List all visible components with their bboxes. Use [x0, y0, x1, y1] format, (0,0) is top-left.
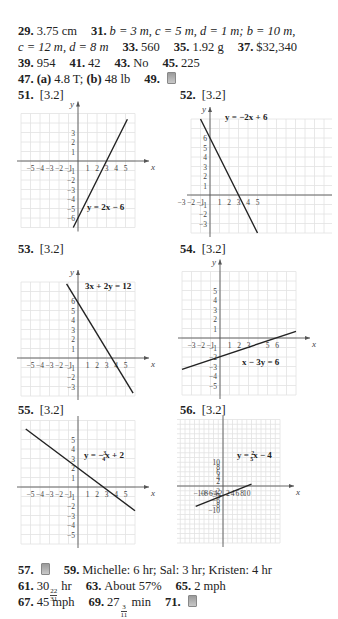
svg-text:−2: −2 — [67, 502, 75, 511]
graph-54: xy−3−2−11235654321−1−2−3−4−5x − 3y = 6 — [177, 255, 332, 403]
answer-line-1: 29.3.75 cm31.b = 3 m, c = 5 m, d = 1 m; … — [18, 24, 295, 39]
answer-number: 33. — [122, 40, 138, 54]
answer-text: 560 — [141, 40, 160, 54]
svg-text:−4: −4 — [209, 372, 217, 381]
svg-text:x: x — [311, 339, 316, 349]
svg-text:−4: −4 — [36, 361, 44, 370]
answer-text: c = 12 m, d = 8 m — [18, 40, 108, 54]
svg-text:4: 4 — [114, 164, 118, 173]
answer-text: 2 mph — [194, 579, 226, 593]
answer-text: 954 — [37, 56, 56, 70]
svg-text:−3: −3 — [67, 512, 75, 521]
svg-text:y = −34x + 2: y = −34x + 2 — [84, 450, 124, 462]
mixed-whole: 30 — [37, 579, 50, 593]
svg-text:3: 3 — [247, 341, 251, 350]
svg-text:2: 2 — [237, 341, 241, 350]
answer-number: 45. — [162, 56, 178, 70]
svg-text:x − 3y = 6: x − 3y = 6 — [242, 357, 280, 367]
graph-55: xy−5−4−3−2−11234554321−1−2−3−4−5y = −34x… — [15, 416, 170, 556]
answer-text: 3.75 cm — [37, 24, 77, 38]
svg-text:3x + 2y = 12: 3x + 2y = 12 — [85, 281, 132, 291]
answer-text: 4.8 T; — [54, 72, 83, 86]
answer-number: 41. — [69, 56, 85, 70]
svg-text:3: 3 — [71, 326, 75, 335]
svg-text:−3: −3 — [199, 220, 207, 229]
frac-den: 11 — [121, 612, 128, 619]
svg-text:−2: −2 — [55, 361, 63, 370]
svg-text:−10: −10 — [208, 506, 220, 515]
svg-text:−2: −2 — [55, 490, 63, 499]
svg-text:5: 5 — [213, 287, 217, 296]
svg-text:5: 5 — [266, 341, 270, 350]
calculator-icon — [41, 563, 50, 575]
svg-text:1: 1 — [218, 198, 222, 207]
svg-text:−1: −1 — [199, 201, 207, 210]
graph-number: 53. — [18, 242, 34, 256]
svg-text:2: 2 — [71, 138, 75, 147]
answer-text: 1.92 g — [192, 40, 223, 54]
answer-number: 57. — [18, 563, 34, 577]
svg-text:−2: −2 — [187, 198, 195, 207]
svg-text:−1: −1 — [67, 364, 75, 373]
answer-number: 37. — [238, 40, 254, 54]
answer-number: 35. — [174, 40, 190, 54]
answer-text: Michelle: 6 hr; Sal: 3 hr; Kristen: 4 hr — [82, 563, 272, 577]
svg-text:−3: −3 — [188, 341, 196, 350]
svg-text:x: x — [150, 162, 155, 172]
svg-text:5: 5 — [71, 307, 75, 316]
answer-text: b = 3 m, c = 5 m, d = 1 m; b = 10 m, — [110, 24, 296, 38]
svg-text:3: 3 — [105, 164, 109, 173]
unit: min — [131, 595, 150, 609]
graph-53: xy−5−4−3−2−112345654321−1−2−33x + 2y = 1… — [15, 255, 170, 403]
svg-text:−6: −6 — [67, 214, 75, 223]
svg-text:−3: −3 — [46, 164, 54, 173]
svg-text:1: 1 — [203, 182, 207, 191]
svg-text:10: 10 — [243, 489, 251, 498]
svg-text:−3: −3 — [46, 361, 54, 370]
svg-text:4: 4 — [213, 296, 217, 305]
answer-number: 65. — [176, 579, 192, 593]
svg-text:y: y — [69, 100, 74, 109]
unit: hr — [61, 579, 71, 593]
svg-text:1: 1 — [228, 341, 232, 350]
calculator-icon — [188, 595, 197, 607]
svg-text:y = 2x − 6: y = 2x − 6 — [87, 202, 125, 212]
svg-text:−4: −4 — [36, 164, 44, 173]
graph-number: 55. — [18, 403, 34, 417]
svg-text:2: 2 — [213, 315, 217, 324]
svg-text:3: 3 — [71, 129, 75, 138]
answer-text: 48 lb — [105, 72, 130, 86]
svg-text:−5: −5 — [209, 382, 217, 391]
svg-text:−2: −2 — [197, 341, 205, 350]
fraction: 311 — [121, 604, 128, 619]
answer-line-2: c = 12 m, d = 8 m33.56035.1.92 g37.$32,3… — [18, 40, 297, 55]
mixed-whole: 27 — [107, 595, 120, 609]
answer-number: 31. — [91, 24, 107, 38]
graph-52: xy−5−4−3−2−112345654321−1−2−3y = −2x + 6 — [177, 100, 332, 242]
svg-text:y: y — [211, 257, 216, 267]
section-ref: [3.2] — [40, 242, 64, 256]
answer-text: $32,340 — [256, 40, 297, 54]
part-label: (b) — [86, 72, 101, 86]
svg-text:−2: −2 — [55, 164, 63, 173]
svg-text:2: 2 — [227, 198, 231, 207]
svg-text:5: 5 — [203, 144, 207, 153]
svg-text:5: 5 — [124, 490, 128, 499]
svg-text:4: 4 — [71, 316, 75, 325]
svg-text:3: 3 — [203, 163, 207, 172]
svg-text:4: 4 — [71, 445, 75, 454]
answer-text: 42 — [88, 56, 101, 70]
svg-text:1: 1 — [71, 345, 75, 354]
svg-text:3: 3 — [105, 361, 109, 370]
svg-text:x: x — [295, 487, 300, 497]
answer-number: 61. — [18, 579, 34, 593]
svg-text:−5: −5 — [67, 531, 75, 540]
svg-text:2: 2 — [95, 164, 99, 173]
answer-line-bottom-1: 57.59.Michelle: 6 hr; Sal: 3 hr; Kristen… — [18, 563, 272, 578]
answer-line-4: 47.(a) 4.8 T; (b) 48 lb49. — [18, 72, 176, 87]
graph-51: xy−5−4−3−2−112345321−1−2−3−4−5−6y = 2x −… — [15, 100, 170, 242]
svg-text:1: 1 — [86, 164, 90, 173]
svg-text:−4: −4 — [36, 490, 44, 499]
graph-number: 56. — [180, 403, 196, 417]
graph-56: xy−10−8−6−4−2246810108642−2−4−6−8−10y = … — [177, 416, 332, 556]
